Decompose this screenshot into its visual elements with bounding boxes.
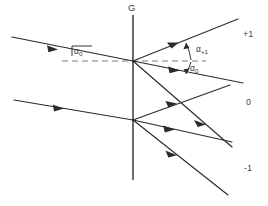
diffraction-angle-zero-subscript: 0	[195, 67, 198, 74]
incident-ray-lower-arrow	[53, 105, 64, 112]
diffraction-angle-plus1-subscript: +1	[201, 48, 208, 55]
diffracted-ray-upper-minus1	[133, 61, 232, 147]
diffraction-grating-diagram: G +1 0 -1 α0 α+1 α0	[0, 0, 268, 206]
diagram-canvas	[0, 0, 268, 206]
grating-label: G	[128, 3, 135, 13]
order-label-minus-one: -1	[244, 164, 252, 173]
incidence-angle-label: α0	[74, 47, 82, 56]
diffracted-ray-lower-minus1-arrow	[165, 151, 177, 158]
incident-ray-upper	[12, 37, 133, 61]
diffraction-angle-plus1-label: α+1	[196, 45, 208, 54]
diffraction-angle-zero-label: α0	[190, 64, 198, 73]
order-label-plus-one: +1	[243, 30, 253, 39]
order-label-zero: 0	[246, 98, 251, 107]
diffracted-ray-upper-plus1-arrow	[167, 42, 179, 48]
incident-ray-lower	[14, 100, 133, 120]
diffracted-ray-upper-zero	[133, 61, 243, 83]
incidence-angle-subscript: 0	[79, 50, 82, 57]
diffracted-ray-lower-plus1	[133, 85, 230, 120]
diffracted-ray-upper-plus1	[133, 19, 238, 61]
diffracted-ray-upper-zero-arrow	[168, 67, 180, 74]
diffracted-ray-lower-zero-arrow	[163, 126, 175, 133]
